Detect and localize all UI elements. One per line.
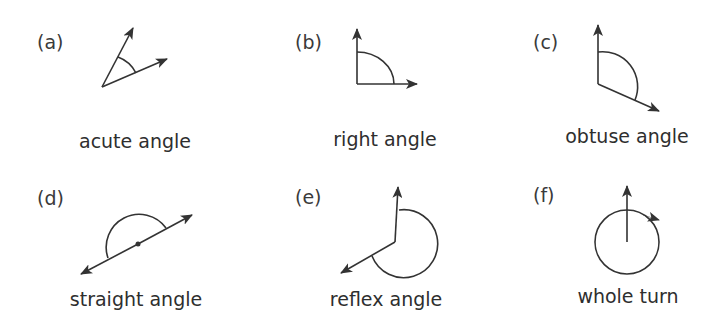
panel-f-label: (f) bbox=[533, 184, 555, 206]
panel-b-caption: right angle bbox=[333, 128, 436, 150]
panel-e-label: (e) bbox=[295, 186, 322, 208]
panel-d-caption: straight angle bbox=[70, 288, 202, 310]
panel-a-caption: acute angle bbox=[79, 130, 191, 152]
whole-turn-figure bbox=[595, 186, 659, 274]
angle-types-diagram bbox=[0, 0, 722, 327]
straight-angle-figure bbox=[81, 214, 192, 274]
acute-angle-figure bbox=[102, 28, 167, 87]
panel-c-label: (c) bbox=[533, 31, 558, 53]
panel-b-label: (b) bbox=[295, 31, 322, 53]
panel-f-caption: whole turn bbox=[577, 285, 678, 307]
right-angle-figure bbox=[357, 29, 417, 84]
panel-c-caption: obtuse angle bbox=[565, 125, 689, 147]
panel-d-label: (d) bbox=[37, 187, 64, 209]
panel-e-caption: reflex angle bbox=[330, 288, 442, 310]
panel-a-label: (a) bbox=[37, 31, 63, 53]
obtuse-angle-figure bbox=[598, 25, 659, 111]
reflex-angle-figure bbox=[341, 187, 438, 278]
